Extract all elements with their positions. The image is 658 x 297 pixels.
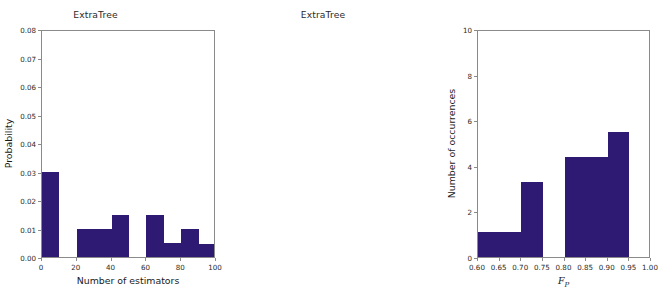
y-tick-mark: [38, 230, 41, 231]
x-tick-mark: [180, 258, 181, 261]
x-tick-mark: [607, 258, 608, 261]
bar: [608, 132, 630, 257]
y-tick-mark: [38, 30, 41, 31]
y-tick-mark: [474, 167, 477, 168]
x-tick-mark: [520, 258, 521, 261]
y-tick-mark: [38, 59, 41, 60]
y-tick-mark: [474, 121, 477, 122]
y-tick-mark: [38, 87, 41, 88]
bar: [500, 232, 522, 257]
bar: [94, 229, 111, 258]
x-tick-mark: [215, 258, 216, 261]
x-tick-label: 0.70: [512, 263, 528, 272]
x-tick-mark: [542, 258, 543, 261]
bar-series-right: [478, 31, 649, 257]
y-tick-mark: [474, 76, 477, 77]
x-tick-label: 60: [141, 263, 150, 272]
x-tick-mark: [650, 258, 651, 261]
bar: [586, 157, 608, 257]
bar: [521, 182, 543, 257]
y-tick-mark: [38, 116, 41, 117]
bar: [42, 172, 59, 258]
y-tick-mark: [474, 212, 477, 213]
x-tick-mark: [111, 258, 112, 261]
y-axis-label-left: Probability: [3, 30, 14, 258]
x-tick-label: 0.60: [469, 263, 485, 272]
bar: [181, 229, 198, 257]
x-tick-label: 0.85: [577, 263, 593, 272]
x-tick-mark: [499, 258, 500, 261]
y-tick-mark: [38, 173, 41, 174]
x-tick-mark: [76, 258, 77, 261]
panel-left: ExtraTree 0.000.010.020.030.040.050.060.…: [0, 0, 219, 297]
x-tick-mark: [145, 258, 146, 261]
chart-title-left: ExtraTree: [0, 9, 205, 20]
x-tick-label: 0.80: [556, 263, 572, 272]
x-tick-label: 0.65: [491, 263, 507, 272]
bar: [164, 243, 181, 257]
bar: [478, 232, 500, 257]
plot-area-left: [41, 30, 215, 258]
chart-title-right: ExtraTree: [213, 9, 433, 20]
y-tick-mark: [38, 144, 41, 145]
x-tick-mark: [564, 258, 565, 261]
y-axis-label-right: Number of occurrences: [446, 30, 457, 258]
x-tick-label: 0: [39, 263, 44, 272]
plot-area-right: [477, 30, 650, 258]
y-tick-mark: [38, 201, 41, 202]
x-tick-mark: [41, 258, 42, 261]
x-tick-mark: [628, 258, 629, 261]
x-tick-label: 1.00: [642, 263, 658, 272]
x-tick-label: 40: [106, 263, 115, 272]
bar-series-left: [42, 31, 214, 257]
x-tick-label: 20: [71, 263, 80, 272]
x-tick-label: 80: [176, 263, 185, 272]
bar: [112, 215, 129, 257]
x-axis-label-left: Number of estimators: [41, 275, 215, 286]
panel-right: ExtraTree 0246810 0.600.650.700.750.800.…: [219, 0, 439, 297]
x-tick-label: 0.75: [534, 263, 550, 272]
x-tick-label: 0.90: [599, 263, 615, 272]
x-tick-mark: [477, 258, 478, 261]
x-tick-mark: [585, 258, 586, 261]
x-axis-label-right: FP: [477, 275, 650, 289]
x-tick-label: 0.95: [620, 263, 636, 272]
bar: [199, 244, 215, 257]
bar: [146, 215, 163, 257]
bar: [565, 157, 587, 257]
bar: [77, 229, 94, 258]
y-tick-mark: [474, 30, 477, 31]
x-axis-label-right-sub: P: [564, 281, 569, 289]
